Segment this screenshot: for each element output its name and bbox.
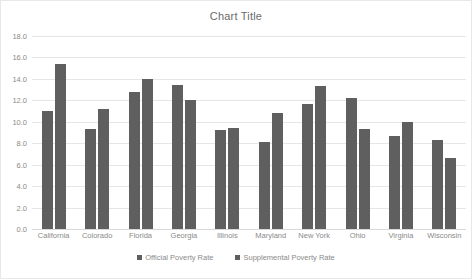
bar[interactable]	[259, 142, 270, 229]
bar[interactable]	[98, 109, 109, 229]
chart-title: Chart Title	[1, 10, 471, 22]
y-axis: 18.016.014.012.010.08.06.04.02.00.0	[1, 36, 27, 229]
bar[interactable]	[55, 64, 66, 229]
bar[interactable]	[402, 122, 413, 229]
legend-item[interactable]: Official Poverty Rate	[137, 253, 213, 262]
y-axis-tick-label: 2.0	[1, 203, 27, 212]
y-axis-tick-label: 6.0	[1, 160, 27, 169]
y-axis-tick-label: 0.0	[1, 225, 27, 234]
chart-legend: Official Poverty RateSupplemental Povert…	[1, 253, 471, 262]
gridline	[32, 229, 466, 230]
bar[interactable]	[85, 129, 96, 229]
bar[interactable]	[142, 79, 153, 229]
bar[interactable]	[445, 158, 456, 229]
chart-container: Chart Title 18.016.014.012.010.08.06.04.…	[0, 0, 472, 279]
bar[interactable]	[185, 100, 196, 229]
bar[interactable]	[302, 104, 313, 229]
x-axis-tick-label: Virginia	[379, 231, 422, 240]
bar-group	[162, 36, 205, 229]
x-axis-tick-label: California	[32, 231, 75, 240]
bar[interactable]	[215, 130, 226, 229]
bar[interactable]	[272, 113, 283, 229]
bar-group	[379, 36, 422, 229]
legend-item-label: Official Poverty Rate	[145, 253, 213, 262]
bar-group	[423, 36, 466, 229]
x-axis-tick-label: Maryland	[249, 231, 292, 240]
y-axis-tick-label: 10.0	[1, 117, 27, 126]
y-axis-tick-label: 14.0	[1, 74, 27, 83]
y-axis-tick-label: 8.0	[1, 139, 27, 148]
legend-item-label: Supplemental Poverty Rate	[243, 253, 334, 262]
bar-group	[75, 36, 118, 229]
bar[interactable]	[432, 140, 443, 229]
x-axis-tick-label: Colorado	[75, 231, 118, 240]
bar[interactable]	[315, 86, 326, 229]
x-axis-tick-label: Wisconsin	[423, 231, 466, 240]
x-axis: CaliforniaColoradoFloridaGeorgiaIllinois…	[32, 231, 466, 240]
bar-group	[336, 36, 379, 229]
bar-group	[249, 36, 292, 229]
legend-item[interactable]: Supplemental Poverty Rate	[235, 253, 334, 262]
bar[interactable]	[228, 128, 239, 229]
x-axis-tick-label: New York	[292, 231, 335, 240]
bar[interactable]	[389, 136, 400, 229]
bar[interactable]	[172, 85, 183, 229]
bar-groups	[32, 36, 466, 229]
x-axis-tick-label: Georgia	[162, 231, 205, 240]
x-axis-tick-label: Ohio	[336, 231, 379, 240]
y-axis-tick-label: 16.0	[1, 53, 27, 62]
x-axis-tick-label: Illinois	[206, 231, 249, 240]
bar-group	[206, 36, 249, 229]
bar-group	[119, 36, 162, 229]
bar-group	[32, 36, 75, 229]
bar[interactable]	[42, 111, 53, 229]
bar-group	[292, 36, 335, 229]
bar[interactable]	[346, 98, 357, 229]
legend-swatch-icon	[137, 255, 142, 260]
y-axis-tick-label: 12.0	[1, 96, 27, 105]
bar[interactable]	[129, 92, 140, 229]
y-axis-tick-label: 4.0	[1, 182, 27, 191]
y-axis-tick-label: 18.0	[1, 32, 27, 41]
legend-swatch-icon	[235, 255, 240, 260]
x-axis-tick-label: Florida	[119, 231, 162, 240]
bar[interactable]	[359, 129, 370, 229]
